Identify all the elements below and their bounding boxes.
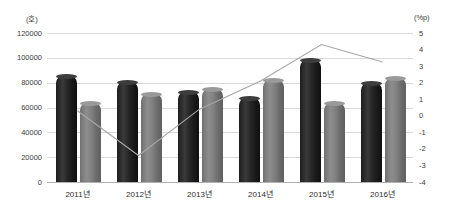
right-axis-tick: 2 <box>419 78 449 87</box>
left-axis-tick: 120000 <box>0 29 42 38</box>
bar-group <box>291 33 352 182</box>
bar-cap <box>56 74 77 79</box>
right-axis-tick: 5 <box>419 29 449 38</box>
chart-container: (호) (%p) 0200004000060000800001000001200… <box>0 0 456 221</box>
bar-group <box>230 33 291 182</box>
gridline <box>47 182 413 183</box>
bar-cap <box>300 58 321 63</box>
bar-group <box>352 33 413 182</box>
x-axis-label: 2013년 <box>169 188 230 199</box>
bar-group <box>108 33 169 182</box>
right-axis-unit-label: (%p) <box>414 13 429 22</box>
bar-cap <box>263 78 284 83</box>
bar-cap <box>324 101 345 106</box>
right-axis-tick: 0 <box>419 111 449 120</box>
bar-s2 <box>324 103 345 182</box>
right-axis-tick: -4 <box>419 178 449 187</box>
bar-s1 <box>361 83 382 182</box>
plot-area <box>47 33 413 182</box>
right-axis-tick: 4 <box>419 45 449 54</box>
right-axis-tick: 1 <box>419 95 449 104</box>
bar-s1 <box>300 60 321 182</box>
right-axis-tick: 3 <box>419 62 449 71</box>
bar-cap <box>141 92 162 97</box>
bar-group <box>169 33 230 182</box>
bar-s2 <box>141 94 162 182</box>
bar-cap <box>178 90 199 95</box>
bar-s1 <box>56 76 77 182</box>
left-axis-tick: 80000 <box>0 78 42 87</box>
bar-cap <box>385 76 406 81</box>
bar-cap <box>361 81 382 86</box>
bar-cap <box>80 101 101 106</box>
left-axis-tick: 100000 <box>0 53 42 62</box>
left-axis-tick: 60000 <box>0 103 42 112</box>
right-axis-tick: -1 <box>419 128 449 137</box>
bar-s2 <box>202 89 223 182</box>
x-axis-label: 2016년 <box>352 188 413 199</box>
bar-s2 <box>263 80 284 182</box>
left-axis-tick: 0 <box>0 178 42 187</box>
right-axis-tick: -3 <box>419 161 449 170</box>
x-axis-label: 2015년 <box>291 188 352 199</box>
x-axis-label: 2012년 <box>108 188 169 199</box>
left-axis-tick: 40000 <box>0 128 42 137</box>
bar-cap <box>239 96 260 101</box>
bar-cap <box>117 80 138 85</box>
bar-s2 <box>80 103 101 182</box>
bar-s1 <box>117 82 138 182</box>
right-axis-tick: -2 <box>419 144 449 153</box>
bar-s1 <box>239 98 260 182</box>
bar-s1 <box>178 92 199 182</box>
x-axis-label: 2011년 <box>47 188 108 199</box>
bar-cap <box>202 87 223 92</box>
x-axis-label: 2014년 <box>230 188 291 199</box>
bar-group <box>47 33 108 182</box>
left-axis-unit-label: (호) <box>26 13 38 24</box>
left-axis-tick: 20000 <box>0 153 42 162</box>
bar-s2 <box>385 78 406 182</box>
